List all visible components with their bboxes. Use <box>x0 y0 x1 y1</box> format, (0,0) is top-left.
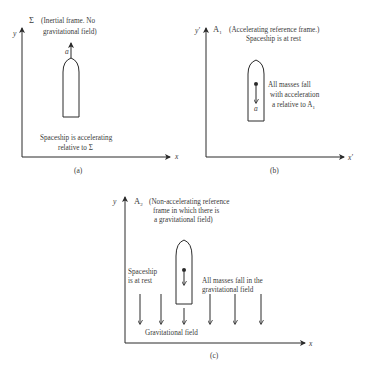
frame-description: Spaceship is at rest <box>246 35 301 43</box>
frame-description: (Inertial frame. No <box>41 17 95 25</box>
panel-a: y x Σ (Inertial frame. No gravitational … <box>12 15 179 175</box>
frame-symbol: A2 <box>134 196 143 207</box>
mass-dot <box>182 268 186 272</box>
caption-b: (b) <box>270 166 279 175</box>
frame-description: (Accelerating reference frame.) <box>229 26 320 34</box>
panel-c: y x A2 (Non-accelerating reference frame… <box>112 196 313 360</box>
note: gravitational field <box>202 286 254 294</box>
y-axis-label: y <box>12 29 17 38</box>
note: Spaceship <box>128 268 158 276</box>
x-axis-label: x <box>308 339 313 348</box>
equivalence-principle-diagram: y x Σ (Inertial frame. No gravitational … <box>0 0 367 365</box>
frame-description: (Non-accelerating reference <box>149 198 229 206</box>
acceleration-label: a <box>254 104 258 113</box>
note: Spaceship is accelerating <box>40 134 113 142</box>
note: is at rest <box>128 277 152 285</box>
caption-a: (a) <box>74 166 83 175</box>
acceleration-label: a <box>65 47 69 56</box>
field-label: Gravitational field <box>145 329 198 337</box>
note: relative to Σ <box>58 144 93 152</box>
frame-description: frame in which there is <box>153 207 219 215</box>
y-axis-label: y' <box>194 26 200 35</box>
frame-symbol-sigma: Σ <box>29 15 34 25</box>
caption-c: (c) <box>210 351 219 360</box>
frame-symbol: A1 <box>213 24 222 35</box>
note: with acceleration <box>270 91 320 99</box>
x-axis-label: x <box>174 152 179 161</box>
frame-description: gravitational field) <box>43 28 97 36</box>
y-axis-label: y <box>112 197 117 206</box>
panel-b: y' x' A1 (Accelerating reference frame.)… <box>194 24 353 175</box>
x-axis-label: x' <box>347 153 353 162</box>
spaceship <box>63 58 79 117</box>
note: All masses fall in the <box>202 277 263 285</box>
note: All masses fall <box>268 81 311 89</box>
note: a relative to A1 <box>272 101 316 110</box>
mass-dot <box>254 82 258 86</box>
gravitational-field-arrows <box>140 294 261 324</box>
frame-description: a gravitational field) <box>154 216 213 224</box>
